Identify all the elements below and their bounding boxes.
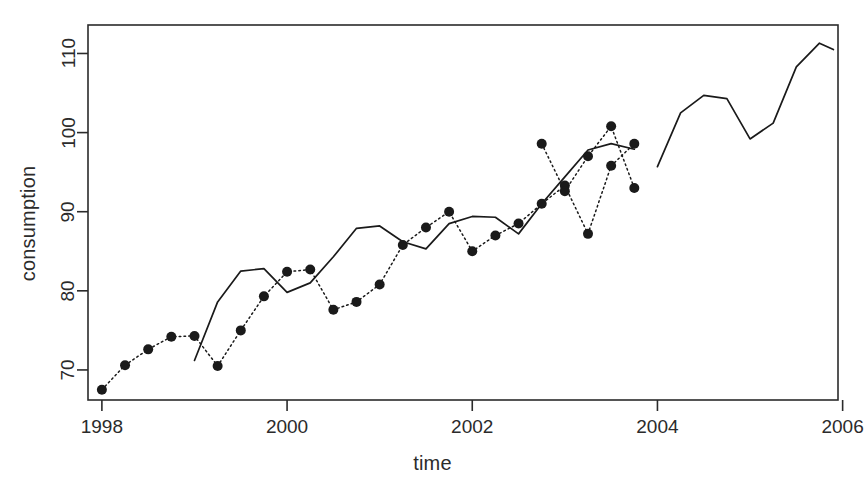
data-point <box>375 279 385 289</box>
data-point <box>490 230 500 240</box>
y-tick-label: 80 <box>57 276 79 306</box>
y-tick-label: 90 <box>57 197 79 227</box>
x-tick-label: 2000 <box>266 416 308 438</box>
x-axis-ticks <box>102 400 843 411</box>
data-point <box>467 246 477 256</box>
x-axis-title: time <box>0 452 865 475</box>
y-tick-label: 100 <box>57 112 79 153</box>
data-point <box>629 139 639 149</box>
data-point <box>143 344 153 354</box>
x-tick-label: 2004 <box>636 416 678 438</box>
data-point <box>282 267 292 277</box>
series-line-fitted <box>194 144 634 361</box>
data-point <box>629 183 639 193</box>
data-series-group <box>97 43 833 395</box>
data-point <box>189 331 199 341</box>
data-point <box>606 121 616 131</box>
data-point <box>560 186 570 196</box>
data-point <box>352 297 362 307</box>
data-point <box>606 161 616 171</box>
data-point <box>514 219 524 229</box>
y-tick-label: 110 <box>57 33 79 74</box>
series-line-forecast <box>657 43 833 166</box>
data-point <box>444 207 454 217</box>
data-point <box>213 361 223 371</box>
x-tick-label: 1998 <box>81 416 123 438</box>
data-point <box>421 223 431 233</box>
consumption-time-series-chart: consumption time 19982000200220042006 70… <box>0 0 865 493</box>
y-tick-label: 70 <box>57 355 79 385</box>
data-point <box>259 291 269 301</box>
data-point <box>305 264 315 274</box>
x-tick-label: 2006 <box>821 416 863 438</box>
x-tick-label: 2002 <box>451 416 493 438</box>
series-line-observed <box>102 144 634 390</box>
data-point <box>97 385 107 395</box>
data-point <box>328 305 338 315</box>
data-point <box>120 360 130 370</box>
data-point <box>166 332 176 342</box>
data-point <box>537 139 547 149</box>
data-point <box>583 229 593 239</box>
plot-canvas <box>0 0 865 493</box>
data-point <box>236 325 246 335</box>
y-axis-title: consumption <box>17 134 40 314</box>
